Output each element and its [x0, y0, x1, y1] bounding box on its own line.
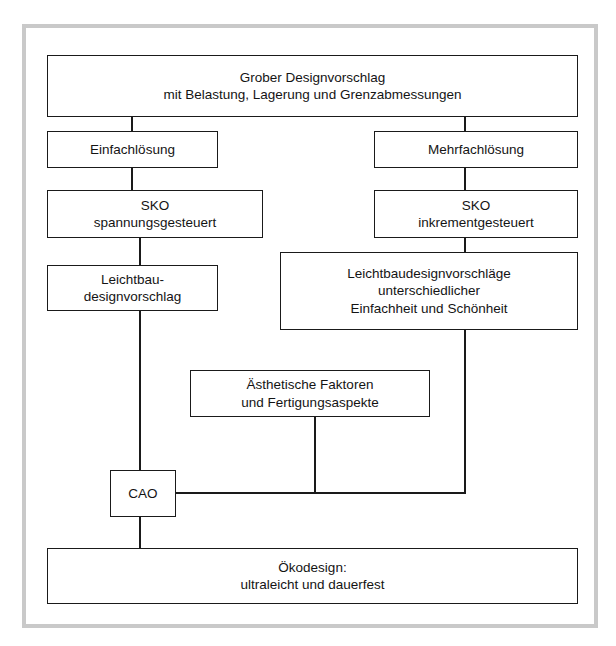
connector-grober-to-mehrfachloesung [464, 117, 466, 132]
connector-grober-to-einfachloesung [131, 117, 133, 132]
connector-einfachloesung-to-sko-spannung [131, 167, 133, 191]
node-grober-designvorschlag[interactable]: Grober Designvorschlag mit Belastung, La… [47, 55, 578, 117]
node-einfachloesung[interactable]: Einfachlösung [47, 131, 218, 168]
node-text: Mehrfachlösung [424, 141, 528, 158]
node-text: Ökodesign: ultraleicht und dauerfest [236, 559, 388, 594]
connector-junction-horizontal [175, 492, 466, 494]
connector-sko-spannung-to-leichtbau [139, 238, 141, 266]
node-text: SKO spannungsgesteuert [90, 197, 220, 232]
node-text: Grober Designvorschlag mit Belastung, La… [160, 69, 466, 104]
node-aesthetische-faktoren[interactable]: Ästhetische Faktoren und Fertigungsaspek… [190, 370, 430, 417]
connector-cao-to-oekodesign [139, 516, 141, 549]
node-sko-inkrementgesteuert[interactable]: SKO inkrementgesteuert [374, 190, 578, 238]
node-text: Einfachlösung [86, 141, 179, 158]
node-leichtbaudesignvorschlaege[interactable]: Leichtbaudesignvorschläge unterschiedlic… [280, 252, 578, 330]
node-oekodesign[interactable]: Ökodesign: ultraleicht und dauerfest [47, 548, 578, 604]
connector-sko-inkrement-to-leichtbauvorschlaege [464, 238, 466, 253]
connector-leichtbauvorschlaege-to-junction [464, 330, 466, 493]
flowchart-canvas: Grober Designvorschlag mit Belastung, La… [0, 0, 616, 646]
node-text: Leichtbau- designvorschlag [80, 271, 186, 306]
connector-aesthetische-to-junction [314, 417, 316, 493]
node-text: SKO inkrementgesteuert [414, 197, 538, 232]
node-text: Ästhetische Faktoren und Fertigungsaspek… [237, 376, 382, 411]
node-leichtbau-designvorschlag[interactable]: Leichtbau- designvorschlag [47, 265, 218, 311]
node-sko-spannungsgesteuert[interactable]: SKO spannungsgesteuert [47, 190, 263, 238]
node-text: CAO [124, 485, 161, 502]
node-cao[interactable]: CAO [110, 470, 176, 517]
node-text: Leichtbaudesignvorschläge unterschiedlic… [343, 265, 515, 317]
connector-leichtbau-to-cao [139, 311, 141, 471]
connector-mehrfachloesung-to-sko-inkrement [464, 167, 466, 191]
node-mehrfachloesung[interactable]: Mehrfachlösung [374, 131, 578, 168]
